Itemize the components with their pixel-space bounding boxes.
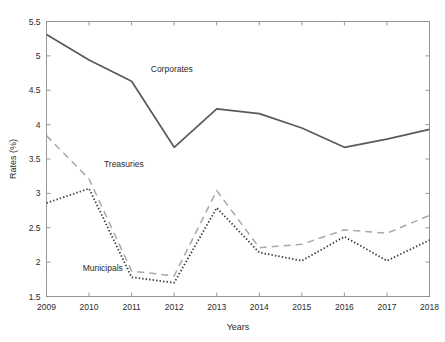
series-line-treasuries bbox=[47, 136, 430, 276]
y-axis-title: Rates (%) bbox=[8, 139, 18, 179]
y-tick-label: 1.5 bbox=[29, 292, 41, 302]
x-tick-label: 2014 bbox=[250, 302, 269, 312]
x-tick-label: 2012 bbox=[165, 302, 184, 312]
chart-figure: 1.522.533.544.555.5200920102011201220132… bbox=[0, 0, 445, 342]
y-tick-label: 4.5 bbox=[29, 85, 41, 95]
y-tick-label: 4 bbox=[36, 120, 41, 130]
x-tick-label: 2017 bbox=[377, 302, 396, 312]
x-tick-label: 2016 bbox=[335, 302, 354, 312]
x-tick-label: 2009 bbox=[37, 302, 56, 312]
y-tick-label: 5 bbox=[36, 51, 41, 61]
series-label-treasuries: Treasuries bbox=[104, 159, 144, 169]
y-tick-label: 2.5 bbox=[29, 223, 41, 233]
series-line-corporates bbox=[47, 35, 430, 148]
x-tick-label: 2018 bbox=[420, 302, 439, 312]
y-tick-label: 3 bbox=[36, 188, 41, 198]
x-tick-label: 2015 bbox=[292, 302, 311, 312]
series-label-corporates: Corporates bbox=[151, 64, 193, 74]
x-tick-label: 2010 bbox=[80, 302, 99, 312]
y-tick-label: 3.5 bbox=[29, 154, 41, 164]
y-tick-label: 2 bbox=[36, 257, 41, 267]
y-tick-label: 5.5 bbox=[29, 17, 41, 27]
rates-line-chart: 1.522.533.544.555.5200920102011201220132… bbox=[0, 0, 445, 342]
x-tick-label: 2011 bbox=[122, 302, 141, 312]
x-tick-label: 2013 bbox=[207, 302, 226, 312]
x-axis-title: Years bbox=[227, 322, 250, 332]
series-label-municipals: Municipals bbox=[83, 263, 123, 273]
